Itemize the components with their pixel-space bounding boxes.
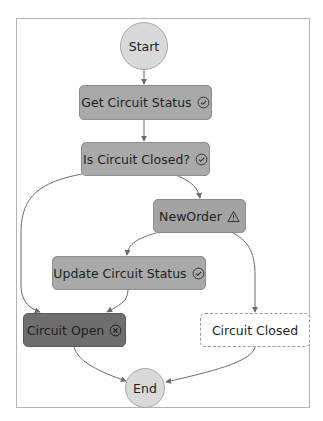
node-end[interactable]: End bbox=[125, 368, 165, 408]
node-end-label: End bbox=[133, 381, 157, 396]
node-get-circuit-status-label: Get Circuit Status bbox=[81, 95, 191, 110]
warning-triangle-icon bbox=[227, 210, 240, 223]
node-circuit-open-label: Circuit Open bbox=[27, 323, 105, 338]
node-circuit-closed[interactable]: Circuit Closed bbox=[200, 313, 310, 347]
node-update-circuit-status[interactable]: Update Circuit Status bbox=[52, 256, 206, 290]
node-is-circuit-closed[interactable]: Is Circuit Closed? bbox=[81, 142, 210, 176]
check-circle-icon bbox=[195, 153, 208, 166]
node-new-order[interactable]: NewOrder bbox=[153, 199, 246, 233]
node-circuit-open[interactable]: Circuit Open bbox=[23, 313, 126, 347]
node-update-circuit-status-label: Update Circuit Status bbox=[53, 266, 186, 281]
node-start[interactable]: Start bbox=[120, 22, 168, 70]
node-is-circuit-closed-label: Is Circuit Closed? bbox=[83, 152, 190, 167]
node-start-label: Start bbox=[129, 39, 160, 54]
x-circle-icon bbox=[109, 324, 122, 337]
node-new-order-label: NewOrder bbox=[159, 209, 222, 224]
node-get-circuit-status[interactable]: Get Circuit Status bbox=[79, 85, 212, 120]
check-circle-icon bbox=[197, 96, 210, 109]
check-circle-icon bbox=[192, 267, 205, 280]
node-circuit-closed-label: Circuit Closed bbox=[212, 323, 298, 338]
